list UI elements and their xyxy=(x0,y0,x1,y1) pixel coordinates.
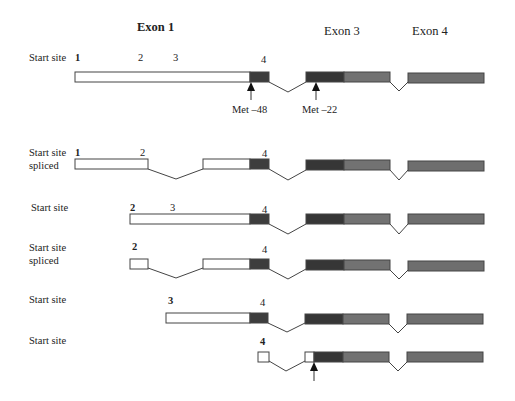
row2-transcript xyxy=(75,159,484,180)
row4-transcript xyxy=(130,259,484,279)
met-22-arrow xyxy=(312,82,320,100)
row6-transcript xyxy=(258,352,483,371)
met-48-arrow xyxy=(247,82,255,100)
row6-start-arrow xyxy=(310,362,318,381)
row1-transcript xyxy=(75,72,484,92)
gene-structure-diagram: Exon 1 Exon 3 Exon 4 Start site Start si… xyxy=(0,0,515,401)
row3-transcript xyxy=(130,214,484,234)
row5-transcript xyxy=(166,313,483,333)
gene-structure-graphics xyxy=(0,0,515,401)
